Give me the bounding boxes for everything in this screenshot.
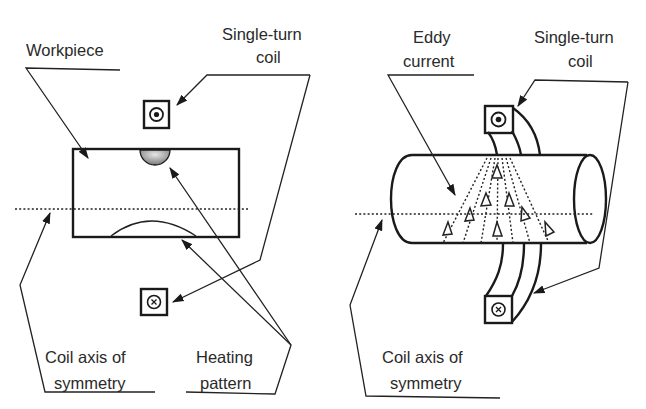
leader-coil-right-bottom: [534, 82, 628, 293]
eddy-arrow-icon: [493, 222, 502, 236]
label-coil-right-1: Single-turn: [534, 28, 614, 46]
label-axis-right-2: symmetry: [390, 374, 462, 392]
label-heating-1: Heating: [196, 348, 253, 366]
label-axis-left-1: Coil axis of: [45, 348, 126, 366]
eddy-arrow-icon: [505, 193, 514, 206]
label-axis-right-1: Coil axis of: [382, 348, 463, 366]
coil-top-left: [144, 101, 169, 128]
heating-pattern-top: [140, 150, 170, 165]
label-eddy-1: Eddy: [413, 28, 451, 46]
leader-coil-left-top: [177, 75, 310, 105]
coil-arm-top: [485, 106, 540, 155]
left-diagram: Workpiece Single-turn coil Coil axis of …: [15, 25, 310, 394]
eddy-arrow-icon: [481, 193, 491, 206]
label-heating-2: pattern: [200, 374, 251, 392]
heating-pattern-bottom: [111, 221, 196, 236]
label-coil-right-2: coil: [568, 52, 593, 70]
eddy-arrow-icon: [545, 222, 554, 236]
eddy-current-arrows: [443, 165, 554, 236]
leader-axis-right: [350, 220, 500, 398]
label-axis-left-2: symmetry: [54, 374, 126, 392]
right-diagram: Eddy current Single-turn coil Coil axis …: [350, 28, 628, 398]
leader-coil-left-bottom: [173, 75, 310, 302]
label-coil-left-2: coil: [256, 48, 281, 66]
induction-heating-diagram: Workpiece Single-turn coil Coil axis of …: [0, 0, 646, 409]
leader-workpiece: [26, 68, 120, 158]
label-eddy-2: current: [403, 52, 455, 70]
eddy-arrow-icon: [443, 222, 452, 235]
coil-bottom-left: [141, 289, 167, 315]
coil-arm-bottom: [485, 244, 541, 323]
leader-heating-bottom: [182, 240, 291, 345]
label-coil-left-1: Single-turn: [222, 25, 302, 43]
leader-coil-right-top: [518, 80, 628, 106]
leader-eddy: [388, 75, 474, 195]
label-workpiece: Workpiece: [26, 41, 104, 59]
